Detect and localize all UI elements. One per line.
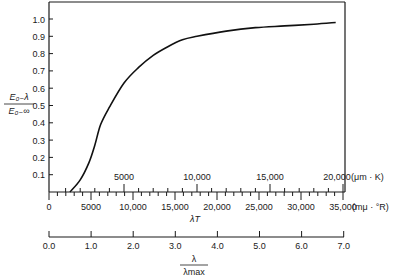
y-label-denominator: E₀₋∞ [8,106,29,116]
y-tick-label: 0.4 [32,118,45,128]
emission-fraction-curve [70,22,336,192]
y-tick-label: 0.1 [32,170,45,180]
y-label-numerator: E₀₋λ [9,92,28,102]
y-tick-label: 0.5 [32,101,45,111]
y-axis: 0.10.20.30.40.50.60.70.80.91.0 [32,15,53,181]
lambda-ratio-denominator: λmax [183,267,205,277]
muR-tick-label: 10,000 [119,202,147,212]
y-tick-label: 1.0 [32,15,45,25]
chart: 0.10.20.30.40.50.60.70.80.91.0 E₀₋λE₀₋∞ … [0,0,394,278]
plot-frame [49,2,345,192]
lambda-ratio-tick-label: 1.0 [85,241,98,251]
umK-tick-label: 5000 [114,172,134,182]
muR-tick-label: 20,000 [203,202,231,212]
muR-tick-label: 25,000 [245,202,273,212]
y-tick-label: 0.6 [32,84,45,94]
muR-unit-label: (mμ · °R) [352,202,389,212]
x-axis-muR: 0500010,00015,00020,00025,00030,00035,00… [46,192,388,224]
x-axis-lambda-ratio: 0.01.02.03.04.05.06.07.0λλmax [43,231,350,277]
lambda-ratio-tick-label: 2.0 [127,241,140,251]
y-tick-label: 0.3 [32,136,45,146]
umK-unit-label: (μm · K) [351,172,384,182]
lambda-ratio-tick-label: 7.0 [337,241,350,251]
umK-tick-label: 20,000 [323,172,351,182]
lambda-ratio-tick-label: 0.0 [43,241,56,251]
lambda-ratio-tick-label: 3.0 [169,241,182,251]
y-tick-label: 0.8 [32,49,45,59]
muR-tick-label: 0 [46,202,51,212]
lambda-ratio-tick-label: 4.0 [211,241,224,251]
muR-tick-label: 5000 [81,202,101,212]
y-tick-label: 0.2 [32,153,45,163]
y-axis-label: E₀₋λE₀₋∞ [4,92,34,116]
umK-tick-label: 10,000 [183,172,211,182]
muR-tick-label: 30,000 [287,202,315,212]
lambda-ratio-tick-label: 5.0 [253,241,266,251]
muR-tick-label: 15,000 [161,202,189,212]
lambdaT-label: λT [189,214,201,224]
lambda-ratio-tick-label: 6.0 [295,241,308,251]
y-tick-label: 0.7 [32,66,45,76]
umK-tick-label: 15,000 [256,172,284,182]
x-axis-umK: 500010,00015,00020,000(μm · K) [66,172,384,192]
lambda-ratio-numerator: λ [192,254,197,264]
y-tick-label: 0.9 [32,32,45,42]
